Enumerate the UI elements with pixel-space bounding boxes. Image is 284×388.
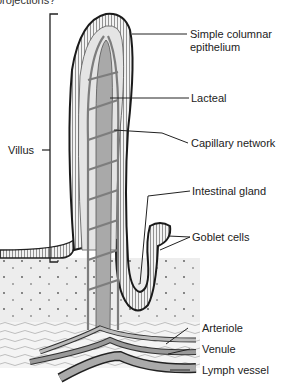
label-capillary-network: Capillary network [191,137,275,150]
villus-bracket [50,14,58,262]
label-arteriole: Arteriole [202,322,243,335]
label-lacteal: Lacteal [191,92,226,105]
label-line-1: Simple columnar [190,28,272,41]
label-venule: Venule [202,343,236,356]
label-villus: Villus [8,144,34,157]
label-goblet-cells: Goblet cells [192,231,249,244]
label-intestinal-gland: Intestinal gland [192,185,266,198]
label-line-2: epithelium [190,41,272,54]
label-simple-columnar-epithelium: Simple columnar epithelium [190,28,272,54]
epithelium-fringe-left [0,240,74,258]
label-lymph-vessel: Lymph vessel [202,364,269,377]
